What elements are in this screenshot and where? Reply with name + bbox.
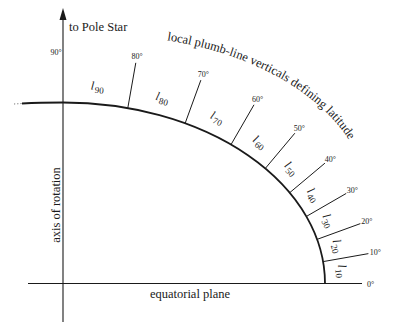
segment-label-50: l50 [280, 158, 301, 179]
latitude-label-50: 50° [294, 124, 305, 133]
latitude-label-20: 20° [361, 217, 372, 226]
latitude-diagram: 80°70°60°50°40°30°20°10° l90l80l70l60l50… [0, 0, 400, 329]
plumb-line-ticks: 80°70°60°50°40°30°20°10° [128, 52, 381, 262]
segment-label-80: l80 [154, 89, 172, 108]
equatorial-plane-label: equatorial plane [150, 287, 231, 301]
segment-label-40: l40 [302, 185, 323, 206]
segment-label-70: l70 [207, 108, 226, 128]
latitude-label-70: 70° [198, 70, 209, 79]
curve-continuation [14, 104, 22, 105]
pole-arrow-icon [60, 8, 67, 20]
plumb-line-10 [323, 254, 368, 262]
plumb-lines-caption-text: local plumb-line verticals defining lati… [166, 29, 358, 142]
segment-label-30: l30 [318, 211, 338, 230]
plumb-line-80 [128, 63, 136, 108]
diagram-canvas: 80°70°60°50°40°30°20°10° l90l80l70l60l50… [0, 0, 400, 329]
equator-degree-label: 0° [367, 280, 374, 289]
plumb-line-40 [290, 163, 325, 193]
segment-label-90: l90 [90, 78, 105, 95]
latitude-label-10: 10° [370, 248, 381, 257]
segment-label-10: l10 [333, 264, 350, 279]
latitude-label-30: 30° [347, 186, 358, 195]
latitude-label-40: 40° [325, 155, 336, 164]
plumb-lines-caption: local plumb-line verticals defining lati… [166, 29, 358, 142]
segment-label-20: l20 [328, 238, 347, 256]
earth-profile-curve [22, 103, 325, 284]
plumb-line-70 [185, 80, 201, 123]
pole-star-label: to Pole Star [69, 20, 128, 34]
segment-label-60: l60 [249, 132, 270, 153]
latitude-label-60: 60° [252, 95, 263, 104]
axis-of-rotation-label: axis of rotation [49, 166, 63, 242]
plumb-line-60 [231, 105, 254, 145]
latitude-label-80: 80° [131, 52, 142, 61]
pole-degree-label: 90° [50, 48, 61, 57]
